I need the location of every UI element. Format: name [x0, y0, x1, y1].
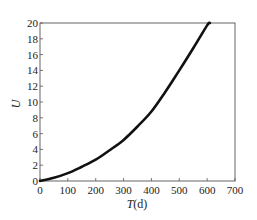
x-tick-label: 600: [199, 184, 216, 196]
series-line: [40, 23, 210, 181]
x-axis-label-unit: (d): [133, 197, 147, 211]
x-axis-label: T(d): [127, 197, 148, 211]
y-tick-label: 18: [27, 33, 39, 45]
y-tick-label: 12: [27, 80, 38, 92]
y-tick-label: 8: [33, 112, 39, 124]
line-chart: 02468101214161820 0100200300400500600700…: [0, 0, 257, 220]
y-axis-label: U: [9, 98, 23, 108]
x-tick-label: 200: [87, 184, 104, 196]
x-tick-label: 500: [171, 184, 188, 196]
plot-frame: [40, 23, 235, 181]
y-tick-label: 4: [33, 143, 39, 155]
x-tick-label: 100: [60, 184, 77, 196]
y-tick-label: 10: [27, 96, 39, 108]
y-tick-label: 16: [27, 49, 39, 61]
y-tick-label: 2: [33, 159, 39, 171]
x-tick-label: 300: [115, 184, 132, 196]
x-tick-label: 0: [37, 184, 43, 196]
y-tick-label: 6: [33, 128, 39, 140]
y-tick-label: 20: [27, 17, 39, 29]
y-axis-ticks: 02468101214161820: [27, 17, 43, 187]
x-tick-label: 400: [143, 184, 160, 196]
x-tick-label: 700: [227, 184, 244, 196]
y-tick-label: 14: [27, 64, 39, 76]
data-series-u: [40, 23, 210, 181]
